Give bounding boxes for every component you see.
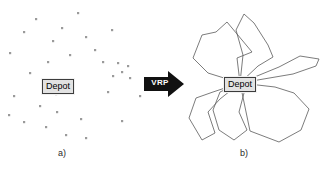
customer-point [112,75,114,77]
customer-point [80,118,82,120]
customer-point [23,121,25,123]
routes-layer [180,0,334,172]
customer-point [56,111,58,113]
customer-point [29,72,31,74]
customer-points-layer [0,0,168,172]
customer-point [45,126,47,128]
panel-a-customers: Depot a) [0,0,168,172]
customer-point [35,18,37,20]
panel-b-routes: Depot b) [180,0,334,172]
route-northwest [193,22,252,83]
customer-point [65,134,67,136]
customer-point [52,40,54,42]
vrp-arrow: VRP [144,70,184,98]
customer-point [129,77,131,79]
depot-label-a: Depot [42,79,74,94]
customer-point [47,61,49,63]
customer-point [117,62,119,64]
customer-point [77,12,79,14]
caption-b: b) [240,148,248,158]
customer-point [139,95,141,97]
customer-point [107,91,109,93]
customer-point [121,120,123,122]
customer-point [69,54,71,56]
caption-a: a) [58,148,66,158]
customer-point [61,27,63,29]
customer-point [121,71,123,73]
customer-point [8,114,10,116]
customer-point [13,95,15,97]
customer-point [9,52,11,54]
vrp-arrow-label: VRP [148,78,172,87]
customer-point [39,105,41,107]
depot-label-b: Depot [224,77,256,92]
customer-point [127,65,129,67]
route-north [236,14,273,83]
customer-point [85,137,87,139]
customer-point [23,31,25,33]
customer-point [102,61,104,63]
vrp-figure: Depot a) VRP Depot b) [0,0,334,172]
customer-point [94,49,96,51]
customer-point [85,36,87,38]
customer-point [111,29,113,31]
